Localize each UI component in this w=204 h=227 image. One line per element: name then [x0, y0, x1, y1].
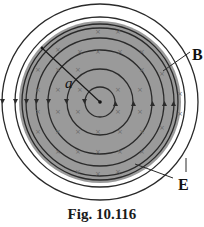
b-label: B — [192, 46, 203, 63]
diagram: ×× ××××× ××××× ×××××× ×××××× ××××××× ×××… — [0, 0, 204, 205]
figure-caption: Fig. 10.116 — [0, 206, 204, 223]
svg-text:×: × — [75, 128, 81, 136]
svg-text:×: × — [117, 128, 123, 136]
svg-text:×: × — [77, 86, 83, 94]
svg-text:×: × — [55, 148, 61, 156]
svg-text:×: × — [35, 66, 41, 74]
svg-text:×: × — [95, 28, 101, 36]
svg-text:×: × — [55, 86, 61, 94]
svg-text:×: × — [77, 48, 83, 56]
svg-text:×: × — [117, 148, 123, 156]
svg-text:×: × — [75, 148, 81, 156]
svg-text:×: × — [55, 128, 61, 136]
svg-text:×: × — [75, 108, 81, 116]
svg-text:×: × — [139, 128, 145, 136]
svg-text:×: × — [115, 108, 121, 116]
e-label: E — [178, 176, 189, 193]
radius-endpoint — [41, 47, 44, 50]
svg-text:×: × — [159, 70, 165, 78]
svg-text:×: × — [115, 86, 121, 94]
radius-label: a — [65, 75, 73, 91]
svg-text:×: × — [139, 48, 145, 56]
svg-text:×: × — [137, 108, 143, 116]
svg-text:×: × — [55, 108, 61, 116]
svg-text:×: × — [35, 108, 41, 116]
svg-text:×: × — [137, 86, 143, 94]
svg-text:×: × — [139, 66, 145, 74]
svg-text:×: × — [117, 48, 123, 56]
svg-text:×: × — [177, 90, 183, 98]
svg-text:×: × — [95, 48, 101, 56]
svg-text:×: × — [177, 110, 183, 118]
svg-text:×: × — [95, 170, 101, 178]
svg-text:×: × — [115, 168, 121, 176]
svg-text:×: × — [55, 66, 61, 74]
svg-text:×: × — [75, 168, 81, 176]
svg-text:×: × — [115, 28, 121, 36]
svg-text:×: × — [139, 148, 145, 156]
svg-text:×: × — [159, 124, 165, 132]
svg-text:×: × — [95, 128, 101, 136]
svg-text:×: × — [35, 128, 41, 136]
svg-text:×: × — [75, 66, 81, 74]
svg-text:×: × — [95, 148, 101, 156]
svg-text:×: × — [55, 46, 61, 54]
svg-text:×: × — [35, 86, 41, 94]
